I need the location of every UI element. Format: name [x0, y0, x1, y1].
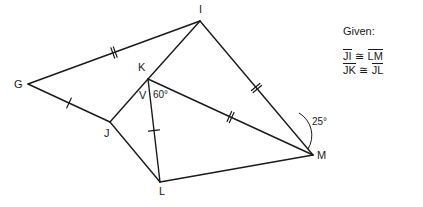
- geometry-figure: G I K J L M V 60° 25° Given: JI ≅ LM JK …: [0, 0, 423, 207]
- given-right-segment: JL: [372, 63, 384, 76]
- vertex-label-V: V: [139, 90, 146, 101]
- vertex-label-L: L: [159, 186, 165, 197]
- vertex-label-M: M: [317, 150, 326, 161]
- given-title: Given:: [343, 26, 375, 37]
- congruence-symbol: ≅: [356, 63, 372, 77]
- edges-group: [28, 21, 313, 182]
- vertex-label-J: J: [104, 128, 110, 139]
- given-statement-row: JK ≅ JL: [343, 63, 383, 77]
- angle-label-60: 60°: [153, 90, 168, 100]
- angle-label-25: 25°: [312, 117, 327, 127]
- given-statements: JI ≅ LM JK ≅ JL: [343, 49, 383, 77]
- vertex-label-I: I: [199, 4, 202, 15]
- segment-I-M: [200, 21, 313, 155]
- given-statement-row: JI ≅ LM: [343, 49, 383, 63]
- given-left-segment: JK: [343, 63, 356, 76]
- segment-K-M: [148, 79, 313, 155]
- given-right-segment: LM: [368, 49, 383, 62]
- angle-arc-m-icon: [299, 113, 312, 149]
- given-left-segment: JI: [343, 49, 352, 62]
- angle-arcs-group: [299, 113, 312, 149]
- segment-L-M: [160, 155, 313, 182]
- congruence-symbol: ≅: [352, 49, 368, 63]
- vertex-label-G: G: [14, 79, 23, 90]
- segment-G-I: [28, 21, 200, 84]
- segment-K-I: [148, 21, 200, 79]
- vertex-label-K: K: [138, 62, 145, 73]
- tick-mark-segment-K-L: [149, 130, 160, 131]
